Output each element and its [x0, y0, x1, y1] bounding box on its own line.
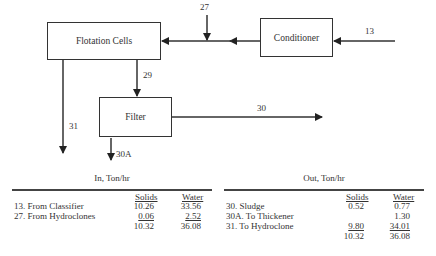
out-row-water: 0.77 — [385, 201, 410, 211]
stream-27-label: 27 — [200, 2, 209, 12]
out-table-rule — [224, 189, 424, 191]
stream-13-label: 13 — [365, 26, 374, 36]
in-row-solids: 0.06 — [130, 211, 154, 221]
out-total-solids: 10.32 — [340, 231, 364, 241]
stream-30a-label: 30A — [116, 149, 132, 159]
out-row-water: 34.01 — [385, 221, 410, 231]
in-row-label: 27. From Hydroclones — [14, 211, 95, 221]
in-total-solids: 10.32 — [130, 221, 154, 231]
in-row-solids: 10.26 — [130, 201, 154, 211]
in-table-title: In, Ton/hr — [12, 173, 212, 183]
out-row-solids: 0.52 — [340, 201, 364, 211]
flotation-cells-node: Flotation Cells — [47, 22, 161, 60]
out-row-water: 1.30 — [385, 211, 410, 221]
stream-30-label: 30 — [257, 103, 266, 113]
stream-29-label: 29 — [143, 70, 152, 80]
out-table-title: Out, Ton/hr — [224, 173, 424, 183]
in-row-label: 13. From Classifier — [14, 201, 84, 211]
out-row-label: 31. To Hydroclone — [226, 221, 293, 231]
in-row-water: 33.56 — [176, 201, 201, 211]
out-row-label: 30A. To Thickener — [226, 211, 294, 221]
stream-31-label: 31 — [69, 121, 78, 131]
conditioner-node: Conditioner — [260, 18, 333, 57]
in-table-rule — [12, 189, 212, 191]
in-total-water: 36.08 — [176, 221, 201, 231]
in-row-water: 2.52 — [176, 211, 201, 221]
filter-label: Filter — [125, 112, 146, 122]
out-total-water: 36.08 — [385, 231, 410, 241]
flotation-cells-label: Flotation Cells — [76, 36, 132, 46]
filter-node: Filter — [99, 97, 172, 137]
conditioner-label: Conditioner — [274, 33, 319, 43]
out-row-solids: 9.80 — [340, 221, 364, 231]
out-row-label: 30. Sludge — [226, 201, 265, 211]
